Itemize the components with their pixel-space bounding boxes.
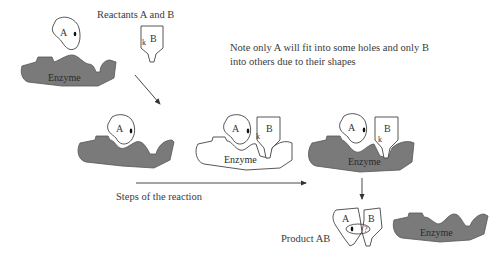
reactants-label: Reactants A and B [97, 9, 174, 21]
stage-ab-bound-outline: A B k Enzyme [196, 115, 292, 170]
diagonal-arrow [135, 75, 160, 104]
svg-text:A: A [342, 213, 350, 224]
svg-text:A: A [116, 123, 124, 134]
note-line-2: into others due to their shapes [230, 55, 470, 69]
svg-text:?: ? [364, 225, 368, 234]
svg-text:k: k [378, 135, 382, 144]
enzyme-released: Enzyme [393, 213, 488, 242]
steps-label: Steps of the reaction [116, 191, 202, 203]
diagram-canvas: A Enzyme B k A A B [0, 0, 503, 257]
substrate-a-free: A [52, 17, 80, 49]
svg-text:Enzyme: Enzyme [420, 227, 453, 238]
substrate-b-label: B [150, 33, 157, 44]
stage-a-bound: A [78, 115, 174, 168]
svg-text:A: A [348, 122, 356, 133]
svg-text:B: B [368, 213, 375, 224]
svg-text:A: A [232, 123, 240, 134]
enzyme-free: Enzyme [21, 55, 116, 86]
svg-text:B: B [266, 123, 273, 134]
svg-text:B: B [384, 123, 391, 134]
stage-ab-bound-shaded: A B k Enzyme [309, 114, 414, 172]
enzyme-label: Enzyme [48, 72, 81, 83]
shape-note: Note only A will fit into some holes and… [230, 41, 470, 69]
substrate-a-label: A [60, 27, 68, 38]
svg-text:k: k [256, 132, 260, 141]
note-line-1: Note only A will fit into some holes and… [230, 41, 470, 55]
svg-text:k: k [142, 38, 146, 47]
enzyme-reaction-diagram: A Enzyme B k A A B [0, 0, 503, 257]
svg-text:Enzyme: Enzyme [224, 154, 257, 165]
product-label: Product AB [281, 233, 330, 245]
svg-text:Enzyme: Enzyme [348, 156, 381, 167]
product-ab: A B ? [333, 208, 382, 246]
substrate-b-free: B k [141, 26, 163, 62]
